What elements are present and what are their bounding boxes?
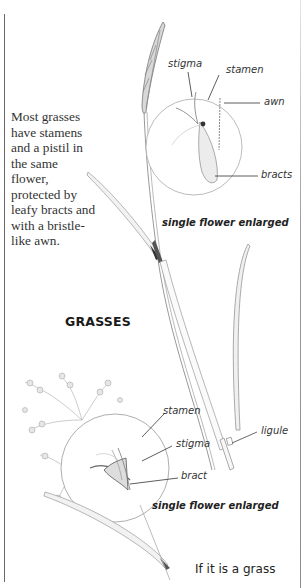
caption-bottom: single flower enlarged	[152, 500, 279, 511]
body-line: the same	[11, 156, 93, 172]
body-line: with a bristle-	[11, 218, 93, 234]
label-ligule: ligule	[261, 425, 288, 436]
label-bracts: bracts	[261, 169, 292, 180]
body-line: Most grasses	[11, 109, 93, 125]
label-stigma-bottom: stigma	[176, 438, 210, 449]
label-bract: bract	[181, 470, 207, 481]
body-line: have stamens	[11, 125, 93, 141]
section-heading: GRASSES	[65, 314, 131, 329]
seed-head-icon	[142, 22, 165, 114]
label-stamen-top: stamen	[226, 64, 264, 75]
footer-text: If it is a grass	[195, 562, 275, 576]
body-line: leafy bracts and	[11, 202, 93, 218]
body-line: like awn.	[11, 233, 93, 249]
label-awn: awn	[264, 96, 285, 107]
label-stigma-top: stigma	[168, 58, 202, 69]
label-stamen-bottom: stamen	[163, 405, 201, 416]
caption-top: single flower enlarged	[162, 217, 289, 228]
body-line: and a pistil in	[11, 140, 93, 156]
body-line: protected by	[11, 187, 93, 203]
body-line: flower,	[11, 171, 93, 187]
body-paragraph: Most grasses have stamens and a pistil i…	[11, 109, 93, 249]
document-page: Most grasses have stamens and a pistil i…	[0, 0, 302, 588]
top-magnifier-circle	[146, 99, 242, 195]
